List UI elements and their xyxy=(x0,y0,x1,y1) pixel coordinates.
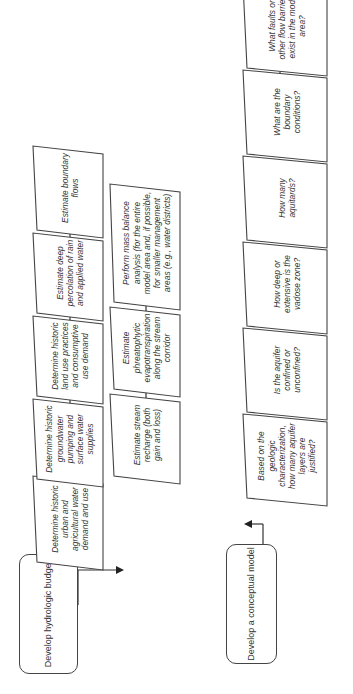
flowchart-diagram: Develop hydrologic budget Develop a conc… xyxy=(0,0,353,694)
develop-conceptual-model-label: Develop a conceptual model xyxy=(246,547,257,661)
concept-q-confined: Is the aquifer confined or unconfined? xyxy=(247,328,327,412)
hydro-step-label: Estimate boundary flows xyxy=(37,146,103,230)
hydro-step-mass-balance: Perform mass balance analysis (for the e… xyxy=(114,184,180,302)
concept-q-label: Based on the geologic characterization, … xyxy=(247,414,327,498)
hydro-step-label: Estimate deep percolation of rain and ap… xyxy=(37,233,103,313)
hydro-step-land-use: Determine historic land use practices an… xyxy=(37,316,103,396)
hydro-step-label: Perform mass balance analysis (for the e… xyxy=(114,184,180,302)
hydro-step-stream-recharge: Estimate stream recharge (both gain and … xyxy=(114,394,180,476)
hydro-step-boundary-flows: Estimate boundary flows xyxy=(37,146,103,230)
concept-q-vadose-zone: How deep or extensive is the vadose zone… xyxy=(247,242,327,326)
concept-q-faults-barriers: What faults or other flow barriers exist… xyxy=(247,0,327,68)
concept-q-boundary-conditions: What are the boundary conditions? xyxy=(247,70,327,154)
hydro-step-urban-ag-demand: Determine historic urban and agricultura… xyxy=(37,476,103,562)
hydro-step-label: Estimate phreatophytic evapotranspiratio… xyxy=(114,307,180,389)
concept-q-label: What faults or other flow barriers exist… xyxy=(247,0,327,68)
hydro-step-label: Determine historic groundwater pumping a… xyxy=(37,399,103,479)
concept-q-label: What are the boundary conditions? xyxy=(247,70,327,154)
develop-hydrologic-budget-label: Develop hydrologic budget xyxy=(43,561,54,668)
concept-q-aquifer-layers: Based on the geologic characterization, … xyxy=(247,414,327,498)
hydro-step-pumping-supplies: Determine historic groundwater pumping a… xyxy=(37,399,103,479)
hydro-step-label: Determine historic land use practices an… xyxy=(37,316,103,396)
concept-q-label: How deep or extensive is the vadose zone… xyxy=(247,242,327,326)
hydro-step-deep-percolation: Estimate deep percolation of rain and ap… xyxy=(37,233,103,313)
hydro-step-label: Determine historic urban and agricultura… xyxy=(37,476,103,562)
concept-q-label: Is the aquifer confined or unconfined? xyxy=(247,328,327,412)
concept-q-label: How many aquitards? xyxy=(247,156,327,240)
hydro-step-label: Estimate stream recharge (both gain and … xyxy=(114,394,180,476)
develop-hydrologic-budget-node: Develop hydrologic budget xyxy=(19,554,78,674)
develop-conceptual-model-node: Develop a conceptual model xyxy=(226,544,277,664)
hydro-step-phreatophytic-et: Estimate phreatophytic evapotranspiratio… xyxy=(114,307,180,389)
concept-q-aquitards: How many aquitards? xyxy=(247,156,327,240)
